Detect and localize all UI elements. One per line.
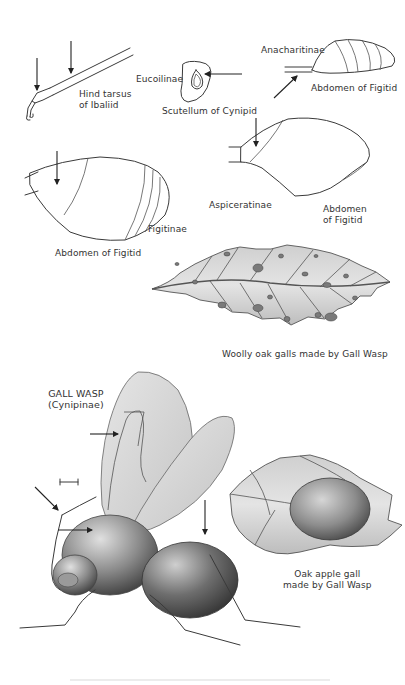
oak-apple-gall-drawing — [230, 455, 402, 554]
label-aspiceratinae: Aspiceratinae — [209, 200, 272, 211]
label-scutellum: Scutellum of Cynipid — [162, 106, 257, 117]
label-line: made by Gall Wasp — [283, 580, 372, 591]
label-oak-apple-gall: Oak apple gall made by Gall Wasp — [283, 569, 372, 591]
label-line: of Ibaliid — [79, 100, 131, 111]
woolly-oak-gall-leaf — [152, 245, 390, 325]
label-line: of Figitid — [323, 215, 367, 226]
label-abdomen-anacharitinae: Abdomen of Figitid — [311, 83, 397, 94]
abdomen-aspiceratinae-drawing — [229, 118, 370, 196]
label-line: Abdomen — [323, 204, 367, 215]
label-gall-wasp: GALL WASP (Cynipinae) — [48, 388, 104, 410]
label-abdomen-figitinae: Abdomen of Figitid — [55, 248, 141, 259]
illustration-plate: Hind tarsus of Ibaliid Eucoilinae Scutel… — [0, 0, 405, 685]
label-figitinae: Figitinae — [148, 224, 187, 235]
label-hind-tarsus: Hind tarsus of Ibaliid — [79, 89, 131, 111]
label-eucoilinae: Eucoilinae — [136, 74, 183, 85]
label-line: (Cynipinae) — [48, 399, 104, 410]
label-line: Hind tarsus — [79, 89, 131, 100]
label-abdomen-aspiceratinae: Abdomen of Figitid — [323, 204, 367, 226]
scutellum-drawing — [181, 61, 242, 102]
label-woolly-oak-galls: Woolly oak galls made by Gall Wasp — [222, 349, 388, 360]
label-line: GALL WASP — [48, 388, 104, 399]
label-line: Oak apple gall — [283, 569, 372, 580]
label-anacharitinae: Anacharitinae — [261, 45, 325, 56]
